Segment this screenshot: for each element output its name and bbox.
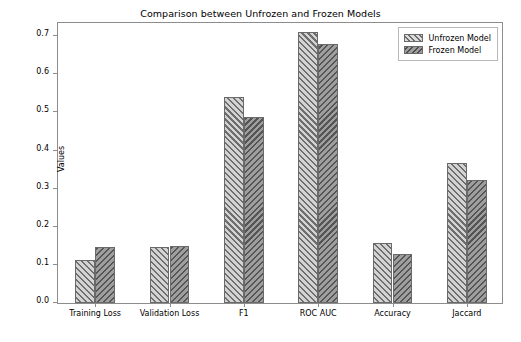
y-tick-label: 0.4 bbox=[36, 144, 49, 153]
y-tick: 0.0 bbox=[53, 302, 58, 303]
bar bbox=[373, 243, 393, 303]
legend-item-unfrozen-model[interactable]: Unfrozen Model bbox=[404, 32, 491, 44]
y-axis-label: Values bbox=[57, 129, 66, 189]
y-tick-label: 0.6 bbox=[36, 67, 49, 76]
bar bbox=[393, 254, 413, 303]
y-tick-label: 0.0 bbox=[36, 296, 49, 305]
chart-legend: Unfrozen Model Frozen Model bbox=[398, 27, 498, 61]
bar bbox=[298, 32, 318, 303]
bar bbox=[170, 246, 190, 303]
bar bbox=[95, 247, 115, 303]
bar-chart-figure: Comparison between Unfrozen and Frozen M… bbox=[0, 0, 521, 342]
y-tick-label: 0.1 bbox=[36, 258, 49, 267]
y-tick-label: 0.3 bbox=[36, 182, 49, 191]
y-tick: 0.2 bbox=[53, 226, 58, 227]
bar bbox=[318, 44, 338, 303]
x-tick bbox=[95, 303, 96, 307]
bar bbox=[244, 117, 264, 303]
y-tick-label: 0.5 bbox=[36, 105, 49, 114]
x-tick-label: Training Loss bbox=[69, 309, 121, 318]
legend-swatch-icon bbox=[404, 46, 423, 54]
x-tick bbox=[318, 303, 319, 307]
legend-label: Unfrozen Model bbox=[428, 34, 491, 43]
legend-label: Frozen Model bbox=[428, 46, 481, 55]
y-tick: 0.6 bbox=[53, 73, 58, 74]
y-tick: 0.3 bbox=[53, 188, 58, 189]
plot-area: Values 0.00.10.20.30.40.50.60.7 Training… bbox=[57, 22, 503, 304]
legend-item-frozen-model[interactable]: Frozen Model bbox=[404, 44, 491, 56]
x-tick-label: Jaccard bbox=[452, 309, 481, 318]
y-tick: 0.4 bbox=[53, 150, 58, 151]
chart-title: Comparison between Unfrozen and Frozen M… bbox=[0, 8, 521, 19]
x-tick bbox=[244, 303, 245, 307]
x-tick bbox=[393, 303, 394, 307]
y-tick: 0.5 bbox=[53, 111, 58, 112]
x-tick-label: Accuracy bbox=[374, 309, 411, 318]
y-tick: 0.7 bbox=[53, 35, 58, 36]
legend-swatch-icon bbox=[404, 34, 423, 42]
x-tick-label: ROC AUC bbox=[300, 309, 337, 318]
bar bbox=[75, 260, 95, 303]
x-tick bbox=[467, 303, 468, 307]
bar bbox=[150, 247, 170, 303]
y-tick: 0.1 bbox=[53, 264, 58, 265]
bar bbox=[224, 97, 244, 303]
bar bbox=[467, 180, 487, 303]
x-tick bbox=[170, 303, 171, 307]
bar bbox=[447, 163, 467, 303]
y-tick-label: 0.2 bbox=[36, 220, 49, 229]
x-tick-label: Validation Loss bbox=[140, 309, 200, 318]
x-tick-label: F1 bbox=[239, 309, 249, 318]
y-tick-label: 0.7 bbox=[36, 29, 49, 38]
